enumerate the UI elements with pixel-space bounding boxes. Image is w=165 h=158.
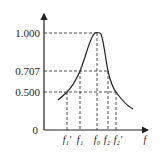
- y-tick-0500: 0.500: [15, 86, 40, 98]
- x-axis-label: f: [144, 134, 148, 145]
- x-mark-f1p: f₁': [63, 134, 72, 145]
- x-mark-f2p: f₂': [114, 134, 123, 145]
- x-mark-f0: f₀: [94, 134, 101, 145]
- resonance-curve-diagram: 1.000 0.707 0.500 0 f₁' f₁ f₀ f₂ f₂' f: [0, 0, 165, 158]
- origin-label: 0: [33, 124, 39, 136]
- x-mark-f2: f₂: [104, 134, 111, 145]
- x-mark-f1: f₁: [77, 134, 83, 145]
- y-tick-1000: 1.000: [15, 27, 40, 39]
- y-tick-0707: 0.707: [15, 65, 40, 77]
